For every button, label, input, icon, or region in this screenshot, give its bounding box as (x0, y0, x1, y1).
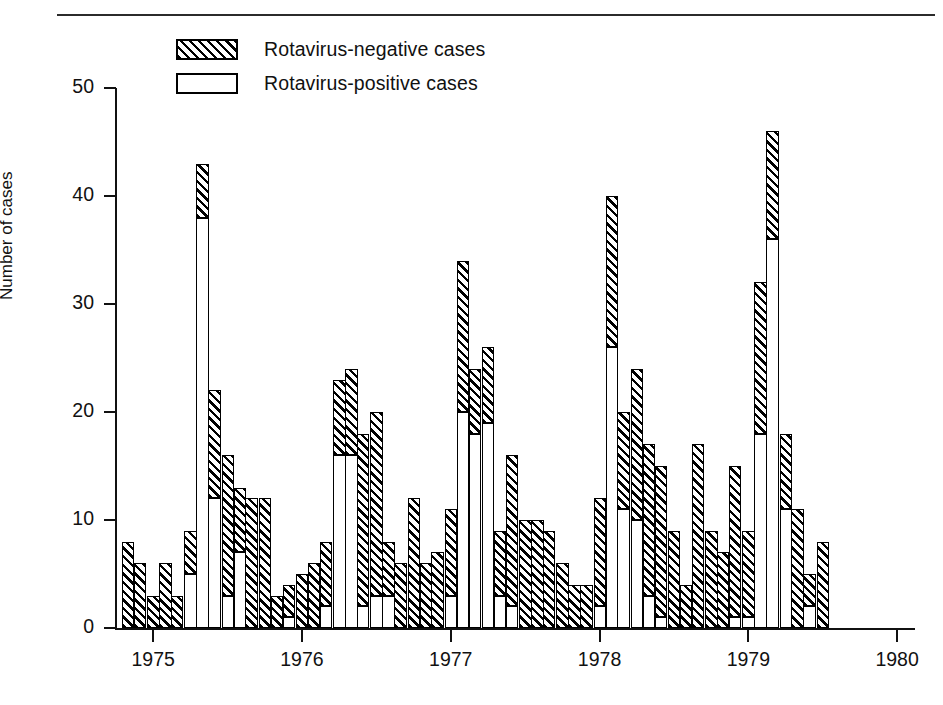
legend-item-negative: Rotavirus-negative cases (176, 32, 485, 66)
y-tick-label-0: 0 (48, 615, 94, 638)
x-tick-label-1975: 1975 (113, 648, 193, 671)
bar-segment-negative (357, 434, 369, 607)
bar-segment-negative (817, 542, 829, 628)
bar-column (408, 498, 420, 628)
bar-segment-negative (382, 542, 394, 596)
bar-segment-positive (803, 606, 815, 628)
bar-column (159, 563, 171, 628)
bar-segment-negative (345, 369, 357, 455)
y-tick-30 (104, 303, 116, 305)
bar-segment-positive (655, 617, 667, 628)
bar-segment-negative (680, 585, 692, 628)
bar-segment-positive (631, 520, 643, 628)
bar-column (171, 596, 183, 628)
bar-column (283, 585, 295, 628)
figure-root: Rotavirus-negative cases Rotavirus-posit… (0, 0, 943, 705)
y-tick-40 (104, 195, 116, 197)
bar-segment-negative (134, 563, 146, 628)
x-tick-1977 (450, 629, 452, 642)
y-axis-title: Number of cases (0, 172, 17, 301)
top-divider-rule (57, 14, 935, 16)
bar-segment-negative (222, 455, 234, 595)
bar-segment-negative (234, 488, 246, 553)
bar-column (357, 434, 369, 628)
bar-column (817, 542, 829, 628)
bar-segment-negative (431, 552, 443, 628)
bar-column (803, 574, 815, 628)
x-tick-label-1976: 1976 (262, 648, 342, 671)
bar-column (222, 455, 234, 628)
bar-segment-negative (803, 574, 815, 606)
bar-segment-positive (482, 423, 494, 628)
bar-column (420, 563, 432, 628)
bar-column (580, 585, 592, 628)
bar-column (134, 563, 146, 628)
bar-column (382, 542, 394, 628)
bar-segment-positive (754, 434, 766, 628)
bar-segment-negative (147, 596, 159, 628)
bar-segment-negative (506, 455, 518, 606)
bar-segment-negative (705, 531, 717, 628)
bar-segment-negative (568, 585, 580, 628)
bar-segment-negative (556, 563, 568, 628)
bar-segment-positive (208, 498, 220, 628)
bar-column (543, 531, 555, 628)
y-tick-10 (104, 519, 116, 521)
bar-column (320, 542, 332, 628)
bar-segment-positive (320, 606, 332, 628)
bar-column (196, 164, 208, 628)
bar-segment-negative (494, 531, 506, 596)
bar-segment-positive (333, 455, 345, 628)
bar-segment-positive (617, 509, 629, 628)
bar-column (245, 498, 257, 628)
legend-label-negative: Rotavirus-negative cases (264, 38, 485, 61)
bar-segment-positive (469, 434, 481, 628)
x-tick-label-1979: 1979 (708, 648, 788, 671)
bar-segment-negative (482, 347, 494, 423)
y-tick-label-10: 10 (48, 507, 94, 530)
bar-column (766, 131, 778, 628)
bar-segment-negative (184, 531, 196, 574)
bar-segment-negative (754, 282, 766, 433)
bar-segment-positive (742, 617, 754, 628)
bar-column (791, 509, 803, 628)
y-tick-0 (104, 627, 116, 629)
bar-segment-negative (668, 531, 680, 628)
bar-segment-positive (780, 509, 792, 628)
x-tick-label-1978: 1978 (560, 648, 640, 671)
bar-segment-negative (208, 390, 220, 498)
bar-segment-positive (196, 218, 208, 628)
bar-segment-positive (506, 606, 518, 628)
bar-segment-positive (357, 606, 369, 628)
bar-column (184, 531, 196, 628)
bar-segment-negative (594, 498, 606, 606)
bar-column (370, 412, 382, 628)
plot-area (116, 88, 912, 628)
bar-column (506, 455, 518, 628)
x-tick-label-1977: 1977 (411, 648, 491, 671)
bar-segment-positive (445, 596, 457, 628)
bar-column (692, 444, 704, 628)
y-tick-20 (104, 411, 116, 413)
x-tick-label-1980: 1980 (857, 648, 937, 671)
bar-segment-negative (271, 596, 283, 628)
bar-segment-positive (729, 617, 741, 628)
bar-column (308, 563, 320, 628)
bar-segment-positive (370, 596, 382, 628)
bar-segment-negative (370, 412, 382, 596)
bar-column (333, 380, 345, 628)
bar-segment-negative (742, 531, 754, 617)
bar-segment-negative (655, 466, 667, 617)
x-tick-1979 (747, 629, 749, 642)
bar-segment-negative (283, 585, 295, 617)
bar-segment-negative (643, 444, 655, 595)
bar-column (780, 434, 792, 628)
y-tick-50 (104, 87, 116, 89)
bar-column (271, 596, 283, 628)
y-tick-label-20: 20 (48, 399, 94, 422)
bar-segment-negative (766, 131, 778, 239)
bar-segment-negative (729, 466, 741, 617)
bar-column (531, 520, 543, 628)
legend-swatch-hatched-icon (176, 39, 238, 60)
bar-column (594, 498, 606, 628)
